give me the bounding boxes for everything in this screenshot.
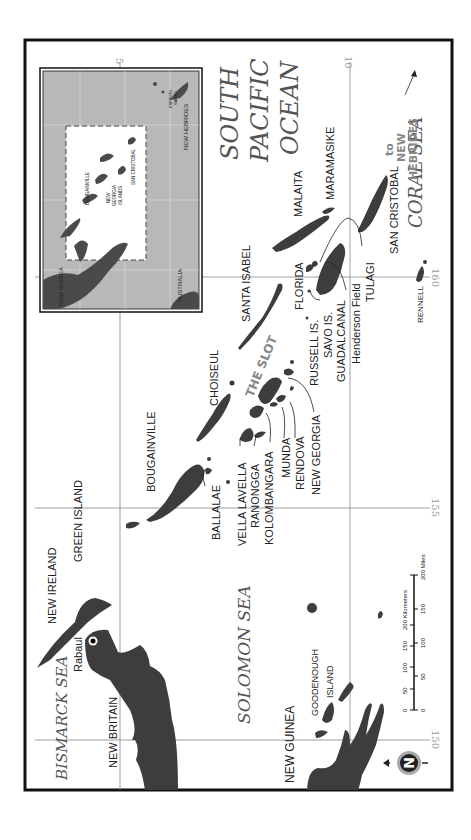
- savo-label: SAVO IS.: [322, 312, 334, 358]
- ranongga-label: RANONGGA: [249, 463, 261, 528]
- choiseul-label: CHOISEUL: [208, 350, 220, 406]
- solomon-islands-map: 5 10 160 155 150 NEW GUINEA: [0, 0, 471, 840]
- scale-km-50: 50: [402, 687, 408, 694]
- malaita-label: MALAITA: [292, 170, 304, 217]
- henderson-field-label: Henderson Field: [350, 283, 362, 364]
- inset-new-georgia-2: GEORGIA: [112, 185, 117, 206]
- rennell-label: RENNELL: [416, 286, 425, 323]
- rendova-label: RENDOVA: [294, 436, 306, 490]
- south-pacific-label-3: OCEAN: [276, 60, 304, 155]
- scale-mi-100: 100: [420, 637, 426, 648]
- florida-label: FLORIDA: [293, 262, 305, 310]
- scale-km-150: 150: [402, 640, 408, 651]
- bougainville-label: BOUGAINVILLE: [145, 411, 157, 492]
- scale-mi-150: 150: [420, 603, 426, 614]
- lat-5-label: 5: [114, 58, 125, 64]
- inset-san-cristobal: SAN CRISTOBAL: [131, 149, 136, 185]
- green-island-label: GREEN ISLAND: [72, 480, 84, 562]
- scale-mi-200: 200 Miles: [420, 554, 426, 580]
- russell-label: RUSSELL IS.: [308, 320, 320, 386]
- inset-espiritu-2: SANTO: [173, 91, 178, 105]
- san-cristobal-label: SAN CRISTOBAL: [388, 166, 400, 254]
- new-britain-label: NEW BRITAIN: [107, 697, 119, 768]
- rabaul-label: Rabaul: [72, 637, 84, 672]
- scale-mi-50: 50: [420, 673, 426, 680]
- inset-new-guinea: NEW GUINEA: [58, 267, 64, 306]
- maramasike-label: MARAMASIKE: [324, 127, 336, 200]
- new-georgia-label: NEW GEORGIA: [310, 414, 322, 495]
- inset-bougainville: BOUGAINVILLE: [85, 172, 90, 205]
- bismarck-sea-label: BISMARCK SEA: [53, 656, 71, 781]
- lat-10-label: 10: [343, 56, 354, 69]
- inset-new-hebrides: NEW HEBRIDES: [183, 104, 189, 150]
- guadalcanal-label: GUADALCANAL: [335, 300, 347, 382]
- goodenough-label-1: GOODENOUGH: [310, 649, 320, 716]
- goodenough-label-2: ISLAND: [325, 665, 335, 698]
- compass-letter: N: [401, 757, 417, 769]
- lon-150-label: 150: [430, 730, 441, 749]
- munda-label: MUNDA: [280, 437, 292, 478]
- solomon-sea-label: SOLOMON SEA: [234, 585, 254, 724]
- new-guinea-label: NEW GUINEA: [283, 706, 297, 783]
- new-ireland-label: NEW IRELAND: [46, 548, 58, 624]
- south-pacific-label-1: SOUTH: [216, 66, 244, 160]
- inset-map: NEW GUINEA AUSTRALIA BOUGAINVILLE NEW GE…: [40, 68, 202, 312]
- vella-lavella-label: VELLA LAVELLA: [236, 462, 248, 546]
- kolombangara-label: KOLOMBANGARA: [263, 451, 275, 545]
- to-new-hebrides-3: HEBRIDES: [407, 118, 420, 180]
- santa-isabel-label: SANTA ISABEL: [240, 245, 252, 322]
- rabaul-marker: [89, 637, 98, 646]
- ballalae-label: BALLALAE: [210, 485, 222, 540]
- scale-km-100: 100: [402, 662, 408, 673]
- inset-new-georgia-1: NEW: [106, 192, 111, 203]
- scale-km-200: 200 Kilometers: [402, 590, 408, 630]
- south-pacific-label-2: PACIFIC: [246, 58, 274, 163]
- lon-160-label: 160: [430, 268, 441, 287]
- inset-australia: AUSTRALIA: [177, 269, 183, 302]
- tulagi-label: TULAGI: [364, 262, 376, 302]
- inset-new-georgia-3: ISLANDS: [118, 186, 123, 205]
- lon-155-label: 155: [430, 498, 441, 517]
